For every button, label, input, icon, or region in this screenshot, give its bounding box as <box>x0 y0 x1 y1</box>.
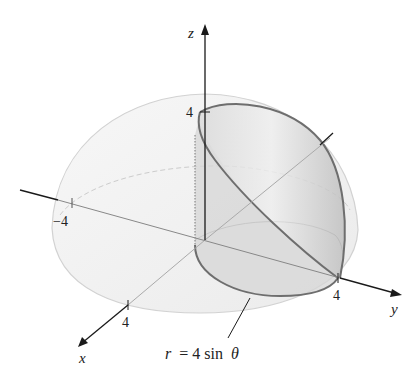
back-axis-stub <box>320 133 333 145</box>
figure-canvas: z y x 4 −4 4 4 r = 4 sin θ <box>0 0 414 365</box>
y-axis-arrow <box>390 289 402 297</box>
annotation-r: r <box>165 345 172 362</box>
x-neg-axis-outer <box>20 190 58 200</box>
y-axis-outer <box>340 278 398 294</box>
y-axis-label: y <box>389 301 398 317</box>
z-axis-label: z <box>187 25 194 41</box>
tick-label-y4: 4 <box>333 288 340 303</box>
tick-label-x4: 4 <box>122 315 129 330</box>
tick-label-z4: 4 <box>186 105 193 120</box>
annotation-equation: r = 4 sin θ <box>165 345 239 362</box>
x-axis-label: x <box>78 350 86 365</box>
z-axis-arrow <box>201 24 209 35</box>
annotation-eq: = 4 sin <box>179 345 223 362</box>
tick-label-x-neg4: −4 <box>53 214 68 229</box>
annotation-theta: θ <box>231 345 239 362</box>
